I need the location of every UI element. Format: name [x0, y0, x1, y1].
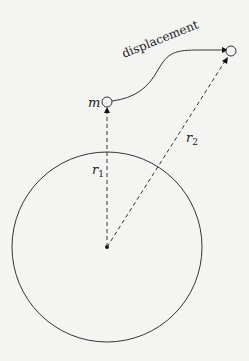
mass-label: m	[88, 95, 100, 110]
r2-label: r2	[186, 130, 198, 147]
mass-end-point	[226, 46, 236, 56]
displacement-label: displacement	[120, 17, 201, 60]
r2-vector	[107, 58, 227, 247]
r2-arrowhead-icon	[222, 57, 228, 64]
mass-start-point	[102, 97, 112, 107]
r1-arrowhead-icon	[104, 107, 110, 113]
r1-label: r1	[92, 162, 104, 179]
gravity-displacement-diagram: displacement m r1 r2	[0, 0, 249, 361]
